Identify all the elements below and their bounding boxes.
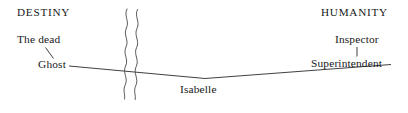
node-label-superintendent: Superintendent — [311, 58, 382, 69]
the-dead-to-ghost-connector — [46, 48, 54, 59]
node-label-the-dead: The dead — [17, 34, 60, 45]
node-label-inspector: Inspector — [335, 34, 379, 45]
diagram-canvas: DESTINY HUMANITY The dead Ghost Isabelle… — [0, 0, 408, 113]
column-heading-destiny: DESTINY — [17, 7, 70, 18]
column-heading-humanity: HUMANITY — [321, 7, 388, 18]
node-label-isabelle: Isabelle — [180, 84, 217, 95]
wavy-divider-stroke-right — [135, 10, 138, 100]
wavy-divider-stroke-left — [124, 9, 127, 99]
node-label-ghost: Ghost — [38, 59, 66, 70]
